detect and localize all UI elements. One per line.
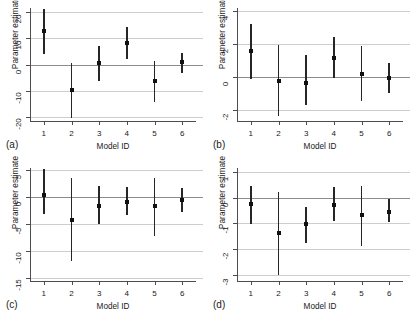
data-point bbox=[180, 60, 184, 64]
x-axis-tick-label: 6 bbox=[381, 129, 397, 138]
data-point bbox=[97, 61, 101, 65]
y-axis-tick-value: 0 bbox=[221, 82, 231, 86]
x-axis-tick bbox=[127, 121, 128, 125]
panel-c: Parameter estimate-15-10-505123456Model … bbox=[0, 160, 207, 320]
y-axis-tick-label: -10 bbox=[12, 86, 26, 96]
y-axis-tick-label: 1 bbox=[219, 167, 233, 177]
y-axis-tick-label: -2 bbox=[219, 244, 233, 254]
x-axis-tick-label: 4 bbox=[119, 289, 135, 298]
y-axis-tick-value: 10 bbox=[14, 41, 24, 50]
data-point bbox=[97, 204, 101, 208]
data-point bbox=[332, 56, 336, 60]
x-axis-tick-label: 3 bbox=[298, 129, 314, 138]
y-axis-line bbox=[237, 168, 238, 281]
y-axis-tick-label: 4 bbox=[219, 6, 233, 16]
x-axis-tick-label: 5 bbox=[354, 289, 370, 298]
x-axis-tick bbox=[182, 281, 183, 285]
data-point bbox=[249, 49, 253, 53]
x-axis-tick bbox=[306, 121, 307, 125]
data-point bbox=[387, 76, 391, 80]
gridline bbox=[27, 38, 203, 39]
data-point bbox=[360, 72, 364, 76]
panel-letter: (c) bbox=[6, 299, 18, 310]
panel-d: Parameter estimate-3-2-101123456Model ID… bbox=[207, 160, 414, 320]
y-axis-tick-value: -10 bbox=[14, 252, 24, 264]
y-axis-tick-value: -3 bbox=[221, 278, 231, 285]
x-axis-tick-label: 5 bbox=[147, 129, 163, 138]
x-axis-tick bbox=[279, 121, 280, 125]
x-axis-tick bbox=[389, 121, 390, 125]
x-axis-tick-label: 4 bbox=[326, 129, 342, 138]
data-point bbox=[180, 198, 184, 202]
gridline bbox=[234, 198, 410, 199]
y-axis-tick-label: -3 bbox=[219, 270, 233, 280]
plot-area: -20-1001020123456 bbox=[30, 8, 196, 121]
x-axis-tick bbox=[362, 121, 363, 125]
data-point bbox=[70, 218, 74, 222]
gridline bbox=[234, 172, 410, 173]
gridline bbox=[27, 117, 203, 118]
x-axis-tick bbox=[99, 121, 100, 125]
x-axis-tick-label: 4 bbox=[326, 289, 342, 298]
data-point bbox=[387, 210, 391, 214]
y-axis-tick-value: 4 bbox=[221, 16, 231, 20]
data-point bbox=[42, 29, 46, 33]
x-axis-tick-label: 2 bbox=[64, 129, 80, 138]
y-axis-tick-label: -5 bbox=[12, 219, 26, 229]
y-axis-tick-label: -2 bbox=[219, 105, 233, 115]
x-axis-tick bbox=[306, 281, 307, 285]
x-axis-tick bbox=[155, 121, 156, 125]
gridline bbox=[27, 170, 203, 171]
x-axis-tick-label: 3 bbox=[298, 289, 314, 298]
data-point bbox=[42, 193, 46, 197]
data-point bbox=[153, 79, 157, 83]
x-axis-tick-label: 1 bbox=[36, 289, 52, 298]
x-axis-line bbox=[30, 281, 196, 282]
data-point bbox=[125, 200, 129, 204]
gridline bbox=[234, 44, 410, 45]
y-axis-tick-value: -2 bbox=[221, 252, 231, 259]
y-axis-tick-value: 0 bbox=[221, 202, 231, 206]
x-axis-tick-label: 4 bbox=[119, 129, 135, 138]
gridline bbox=[234, 275, 410, 276]
data-point bbox=[277, 231, 281, 235]
y-axis-tick-value: -1 bbox=[221, 227, 231, 234]
y-axis-tick-value: -15 bbox=[14, 279, 24, 291]
x-axis-tick bbox=[99, 281, 100, 285]
x-axis-tick-label: 1 bbox=[36, 129, 52, 138]
plot-area: -2024123456 bbox=[237, 8, 403, 121]
gridline bbox=[234, 77, 410, 78]
x-axis-label: Model ID bbox=[237, 142, 403, 151]
data-point bbox=[332, 203, 336, 207]
y-axis-tick-label: 20 bbox=[12, 7, 26, 17]
y-axis-tick-label: 10 bbox=[12, 33, 26, 43]
x-axis-tick-label: 5 bbox=[147, 289, 163, 298]
gridline bbox=[27, 197, 203, 198]
y-axis-tick-label: 0 bbox=[219, 72, 233, 82]
x-axis-tick bbox=[362, 281, 363, 285]
y-axis-line bbox=[237, 8, 238, 121]
x-axis-tick bbox=[251, 121, 252, 125]
data-point bbox=[304, 81, 308, 85]
y-axis-tick-value: 5 bbox=[14, 175, 24, 179]
data-point bbox=[304, 222, 308, 226]
x-axis-tick-label: 1 bbox=[243, 289, 259, 298]
y-axis-tick-value: -10 bbox=[14, 92, 24, 104]
y-axis-tick-label: 0 bbox=[12, 192, 26, 202]
x-axis-tick bbox=[44, 121, 45, 125]
data-point bbox=[360, 213, 364, 217]
four-panel-parameter-estimate-figure: Parameter estimate-20-1001020123456Model… bbox=[0, 0, 414, 320]
gridline bbox=[234, 11, 410, 12]
y-axis-tick-value: 20 bbox=[14, 14, 24, 23]
x-axis-line bbox=[237, 121, 403, 122]
x-axis-label: Model ID bbox=[30, 142, 196, 151]
x-axis-tick bbox=[44, 281, 45, 285]
y-axis-tick-value: -5 bbox=[14, 227, 24, 234]
y-axis-tick-value: -20 bbox=[14, 118, 24, 130]
gridline bbox=[27, 278, 203, 279]
x-axis-label: Model ID bbox=[237, 302, 403, 311]
x-axis-label: Model ID bbox=[30, 302, 196, 311]
y-axis-tick-label: 5 bbox=[12, 165, 26, 175]
data-point bbox=[70, 88, 74, 92]
x-axis-tick-label: 3 bbox=[91, 289, 107, 298]
